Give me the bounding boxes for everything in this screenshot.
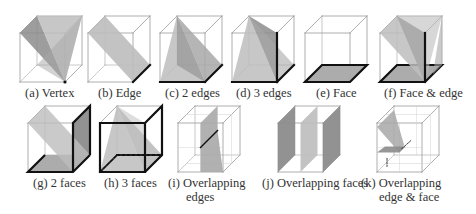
panel-c-caption: (c) 2 edges xyxy=(165,86,220,100)
caption-line: (f) Face & edge xyxy=(384,86,463,100)
panel-f-cube xyxy=(380,16,442,82)
caption-line: (a) Vertex xyxy=(25,86,74,100)
caption-line: (i) Overlapping xyxy=(168,176,245,190)
hidden-edge xyxy=(88,65,105,82)
panel-k-cube xyxy=(377,106,439,172)
plane xyxy=(323,106,340,172)
panel-h-caption: (h) 3 faces xyxy=(104,176,157,190)
cube-edge xyxy=(350,16,367,33)
cube-edge xyxy=(277,16,294,33)
caption-line: (g) 2 faces xyxy=(33,176,86,190)
cube-edge xyxy=(133,16,150,33)
panel-b-caption: (b) Edge xyxy=(98,86,141,100)
panel-i-caption: (i) Overlappingedges xyxy=(168,176,245,204)
panel-j-caption: (j) Overlapping faces xyxy=(262,176,368,190)
panel-d-cube xyxy=(232,16,294,82)
panel-a-caption: (a) Vertex xyxy=(25,86,74,100)
caption-line: (c) 2 edges xyxy=(165,86,220,100)
panel-f-caption: (f) Face & edge xyxy=(384,86,463,100)
plane xyxy=(301,106,318,172)
caption-line: (e) Face xyxy=(316,86,357,100)
caption-line: (j) Overlapping faces xyxy=(262,176,368,190)
panel-e-cube xyxy=(305,16,367,82)
caption-line: (b) Edge xyxy=(98,86,141,100)
plane xyxy=(377,110,404,152)
panel-h-cube xyxy=(100,106,162,172)
panel-a-cube xyxy=(20,16,82,84)
panel-j-cube xyxy=(278,106,340,172)
cube-edge xyxy=(305,16,322,33)
panel-i-cube xyxy=(178,106,240,172)
plane xyxy=(88,16,150,82)
panel-b-cube xyxy=(88,16,150,82)
caption-continuation: edge & face xyxy=(361,190,441,204)
panel-k-caption: (k) Overlappingedge & face xyxy=(361,176,441,204)
panel-e-caption: (e) Face xyxy=(316,86,357,100)
panel-c-cube xyxy=(160,16,222,82)
panel-d-caption: (d) 3 edges xyxy=(236,86,292,100)
caption-continuation: edges xyxy=(168,190,245,204)
caption-line: (h) 3 faces xyxy=(104,176,157,190)
panel-g-caption: (g) 2 faces xyxy=(33,176,86,190)
panel-g-cube xyxy=(28,106,90,172)
caption-line: (d) 3 edges xyxy=(236,86,292,100)
plane xyxy=(278,106,295,172)
caption-line: (k) Overlapping xyxy=(361,176,441,190)
hidden-edge xyxy=(20,65,37,82)
cube-edge xyxy=(205,16,222,33)
vertex-marker xyxy=(63,80,66,83)
